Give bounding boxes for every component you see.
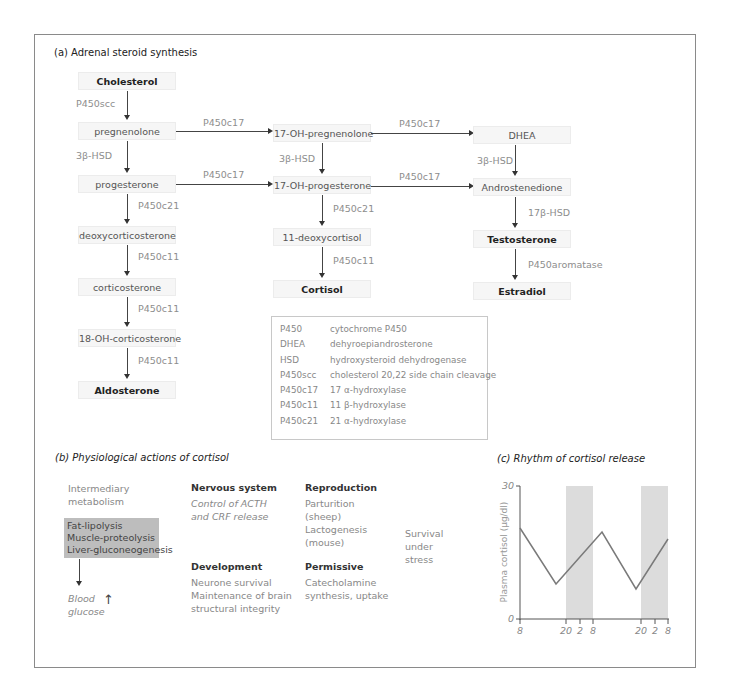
x-tick-label: 2 bbox=[577, 625, 583, 636]
legend-def: 17 α-hydroxylase bbox=[330, 383, 479, 398]
arrow-line bbox=[127, 141, 128, 168]
x-tick-label: 8 bbox=[590, 625, 596, 636]
reproduction-text: Parturition (sheep) Lactogenesis (mouse) bbox=[305, 497, 367, 549]
text-line: Control of ACTH bbox=[191, 497, 268, 510]
night-shade-1 bbox=[566, 486, 593, 619]
enzyme-label: P450c17 bbox=[203, 117, 244, 128]
node-17-oh-progesterone: 17-OH-progesterone bbox=[273, 176, 371, 194]
enzyme-label: P450c21 bbox=[333, 203, 374, 214]
arrow-down-icon bbox=[124, 168, 130, 173]
intermediary-metabolism-label: Intermediary metabolism bbox=[68, 482, 129, 508]
text-line: synthesis, uptake bbox=[305, 589, 388, 602]
legend-def: hydroxysteroid dehydrogenase bbox=[330, 353, 479, 368]
x-ticks bbox=[520, 619, 668, 624]
legend-def: 21 α-hydroxylase bbox=[330, 414, 479, 429]
y-tick-label: 30 bbox=[502, 480, 514, 491]
reproduction-heading: Reproduction bbox=[305, 482, 377, 493]
text-line: Lactogenesis bbox=[305, 523, 367, 536]
x-tick-label: 20 bbox=[560, 625, 572, 636]
arrow-line bbox=[515, 249, 516, 275]
arrow-down-icon bbox=[512, 275, 518, 280]
text-line: Survival bbox=[405, 527, 443, 540]
text-line: structural integrity bbox=[191, 602, 292, 615]
arrow-line bbox=[322, 247, 323, 273]
survival-under-stress-text: Survival under stress bbox=[405, 527, 443, 566]
arrow-line bbox=[515, 197, 516, 223]
text-line: (sheep) bbox=[305, 510, 367, 523]
text-line: under bbox=[405, 540, 443, 553]
arrow-line bbox=[127, 91, 128, 115]
development-text: Neurone survival Maintenance of brain st… bbox=[191, 576, 292, 615]
permissive-heading: Permissive bbox=[305, 561, 363, 572]
x-tick-label: 8 bbox=[665, 625, 671, 636]
enzyme-label: 3β-HSD bbox=[279, 153, 315, 164]
y-axis-label: Plasma cortisol (μg/dl) bbox=[499, 502, 509, 603]
arrow-down-icon bbox=[124, 271, 130, 276]
legend-abbr: DHEA bbox=[280, 337, 330, 352]
text-line: Muscle-proteolysis bbox=[67, 532, 156, 544]
arrow-down-icon bbox=[319, 221, 325, 226]
node-pregnenolone: pregnenolone bbox=[78, 122, 176, 140]
nervous-system-text: Control of ACTH and CRF release bbox=[191, 497, 268, 523]
arrow-down-icon bbox=[124, 322, 130, 327]
legend-row: P450cytochrome P450 bbox=[280, 322, 479, 337]
arrow-line bbox=[127, 194, 128, 219]
enzyme-label: P450aromatase bbox=[528, 259, 603, 270]
blood-glucose-label: Blood glucose bbox=[68, 592, 105, 618]
enzyme-label: P450c17 bbox=[203, 169, 244, 180]
text-line: and CRF release bbox=[191, 510, 268, 523]
legend-def: 11 β-hydroxylase bbox=[330, 398, 479, 413]
node-18-oh-corticosterone: 18-OH-corticosterone bbox=[78, 329, 176, 347]
arrow-line bbox=[322, 195, 323, 221]
node-androstenedione: Androstenedione bbox=[473, 178, 571, 196]
panel-a-title: (a) Adrenal steroid synthesis bbox=[54, 47, 197, 58]
arrow-line bbox=[176, 184, 268, 185]
text-line: Fat-lipolysis bbox=[67, 520, 156, 532]
node-estradiol: Estradiol bbox=[473, 282, 571, 300]
legend-row: HSDhydroxysteroid dehydrogenase bbox=[280, 353, 479, 368]
arrow-line bbox=[322, 143, 323, 169]
legend-def: cholesterol 20,22 side chain cleavage bbox=[330, 368, 496, 383]
legend-abbr: P450c17 bbox=[280, 383, 330, 398]
node-progesterone: progesterone bbox=[78, 175, 176, 193]
node-cortisol: Cortisol bbox=[273, 280, 371, 298]
nervous-system-heading: Nervous system bbox=[191, 482, 277, 493]
text-line: Neurone survival bbox=[191, 576, 292, 589]
permissive-text: Catecholamine synthesis, uptake bbox=[305, 576, 388, 602]
enzyme-label: 3β-HSD bbox=[76, 150, 112, 161]
legend-abbr: P450 bbox=[280, 322, 330, 337]
x-tick-label: 2 bbox=[652, 625, 658, 636]
arrow-down-icon bbox=[319, 169, 325, 174]
enzyme-label: 17β-HSD bbox=[528, 207, 570, 218]
text-line: metabolism bbox=[68, 495, 129, 508]
legend-def: cytochrome P450 bbox=[330, 322, 479, 337]
node-11-deoxycortisol: 11-deoxycortisol bbox=[273, 228, 371, 246]
abbreviation-legend: P450cytochrome P450 DHEAdehyroepiandrost… bbox=[271, 316, 488, 440]
panel-b-title: (b) Physiological actions of cortisol bbox=[55, 452, 229, 463]
enzyme-label: P450c11 bbox=[138, 355, 179, 366]
arrow-line bbox=[127, 297, 128, 322]
arrow-down-icon bbox=[512, 171, 518, 176]
arrow-line bbox=[371, 133, 469, 134]
legend-abbr: P450c21 bbox=[280, 414, 330, 429]
x-axis-label: Time (hours) bbox=[564, 639, 622, 640]
text-line: Catecholamine bbox=[305, 576, 388, 589]
enzyme-label: P450scc bbox=[76, 98, 115, 109]
enzyme-label: P450c21 bbox=[138, 200, 179, 211]
text-line: Blood bbox=[68, 592, 105, 605]
enzyme-label: P450c17 bbox=[399, 171, 440, 182]
text-line: Liver-gluconeogenesis bbox=[67, 544, 156, 556]
panel-c-title: (c) Rhythm of cortisol release bbox=[497, 453, 645, 464]
legend-row: DHEAdehyroepiandrosterone bbox=[280, 337, 479, 352]
legend-row: P450c1111 β-hydroxylase bbox=[280, 398, 479, 413]
cortisol-rhythm-chart: 30 0 8 20 2 8 20 2 8 Time (hours) Plasma… bbox=[470, 470, 700, 640]
increase-arrow-icon: ↑ bbox=[103, 592, 114, 607]
x-tick-label: 20 bbox=[635, 625, 647, 636]
y-tick-label: 0 bbox=[508, 613, 514, 624]
arrow-line bbox=[176, 131, 268, 132]
legend-abbr: P450scc bbox=[280, 368, 330, 383]
text-line: Maintenance of brain bbox=[191, 589, 292, 602]
enzyme-label: P450c11 bbox=[333, 255, 374, 266]
node-deoxycorticosterone: deoxycorticosterone bbox=[78, 226, 176, 244]
arrow-line bbox=[79, 559, 80, 581]
